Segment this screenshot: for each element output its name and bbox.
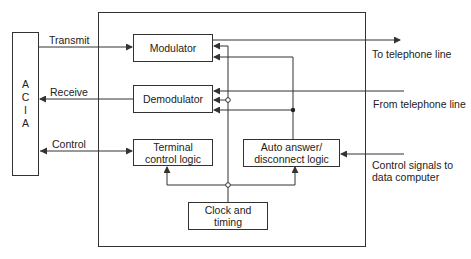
clock-label: timing [214,216,242,228]
junction-dot [291,108,295,112]
from-telephone-label: From telephone line [373,98,466,110]
acia-letter: A [22,78,29,91]
control-signals-label: Control signals to [372,159,453,171]
receive-label: Receive [50,86,88,98]
demodulator-label: Demodulator [143,93,203,105]
terminal-control-label: control logic [145,153,201,165]
transmit-label: Transmit [49,34,89,46]
control-label: Control [52,138,86,150]
acia-letter: C [22,91,30,104]
terminal-control-label: Terminal [153,141,193,153]
acia-letter: A [22,117,29,130]
clock-label: Clock and [205,204,252,216]
auto-answer-label: disconnect logic [254,153,329,165]
auto-answer-block: Auto answer/ disconnect logic [243,139,340,167]
terminal-control-block: Terminal control logic [133,139,213,166]
junction-open [226,183,231,188]
modulator-label: Modulator [150,42,197,54]
to-telephone-label: To telephone line [372,48,451,60]
auto-answer-label: Auto answer/ [261,141,322,153]
acia-letter: I [24,104,27,117]
demodulator-block: Demodulator [133,85,213,113]
control-signals-label: data computer [372,171,439,183]
junction-open [226,98,231,103]
acia-block: A C I A [12,32,39,176]
clock-timing-block: Clock and timing [188,202,268,230]
modulator-block: Modulator [133,34,213,62]
